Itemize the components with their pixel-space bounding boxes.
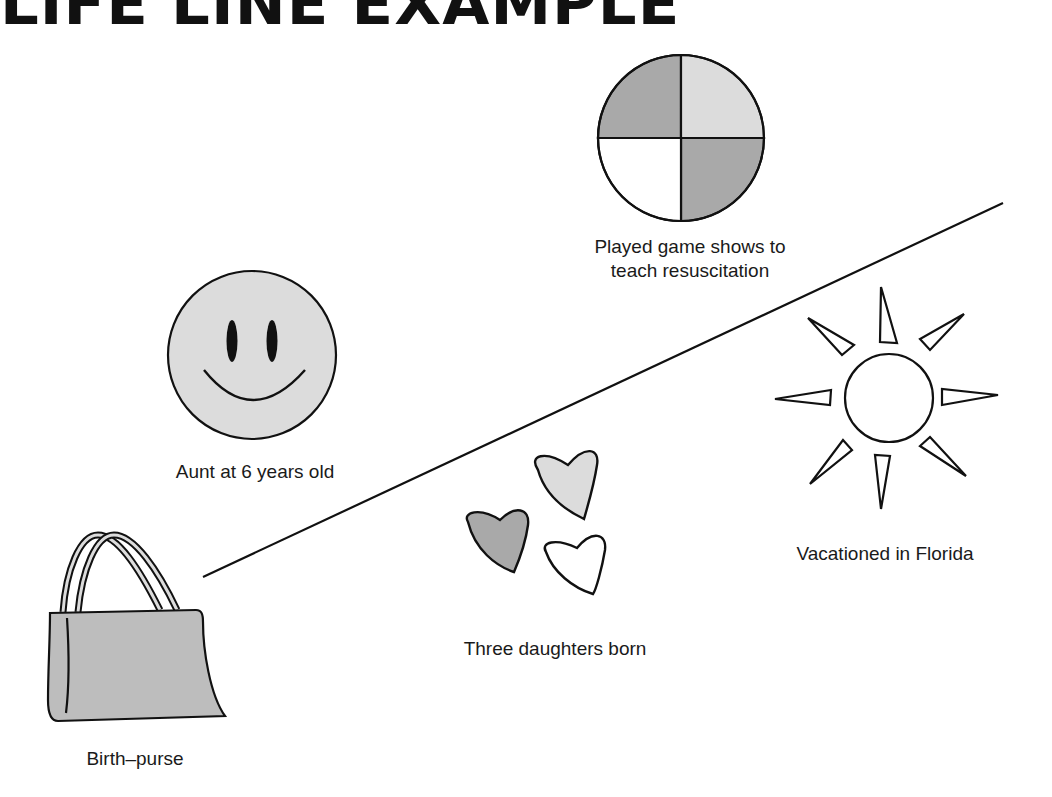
life-line-diagram: LIFE LINE EXAMPLE <box>0 0 1052 797</box>
quartered-circle-icon <box>598 55 764 221</box>
event-label-aunt: Aunt at 6 years old <box>145 460 365 484</box>
diagram-canvas <box>0 0 1052 797</box>
purse-icon <box>48 535 225 721</box>
event-label-florida: Vacationed in Florida <box>760 542 1010 566</box>
label-line-2: teach resuscitation <box>585 259 795 283</box>
heart-light <box>535 451 597 519</box>
heart-white <box>545 536 605 594</box>
event-label-daughters: Three daughters born <box>430 637 680 661</box>
smiley-face-icon <box>168 271 336 439</box>
heart-dark <box>467 510 528 572</box>
label-line-1: Played game shows to <box>585 235 795 259</box>
event-label-game-shows: Played game shows to teach resuscitation <box>585 235 795 283</box>
three-hearts-icon <box>467 451 605 594</box>
sun-icon <box>775 287 998 509</box>
event-label-birth: Birth–purse <box>55 747 215 771</box>
